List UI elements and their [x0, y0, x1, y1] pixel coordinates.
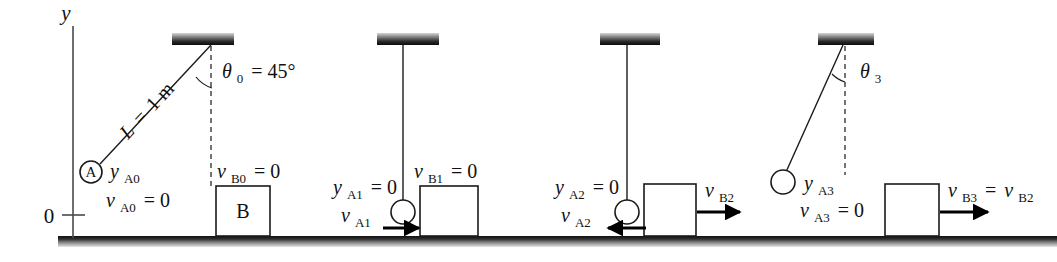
pendulum-ball-3 — [771, 170, 795, 194]
ceiling-support-3 — [818, 33, 874, 45]
collision-diagram: y 0 L = 1 m — [0, 0, 1057, 262]
vb1-label: v B1 = 0 — [414, 160, 477, 186]
origin-label: 0 — [44, 204, 55, 228]
va3-label: v A3 = 0 — [800, 199, 864, 225]
angle-arc-0 — [196, 77, 212, 88]
string-length-label: L = 1 m — [114, 77, 178, 143]
vb2-label: v B2 — [705, 179, 734, 205]
block-b-3 — [885, 184, 939, 236]
ceiling-support-1 — [377, 33, 439, 45]
pendulum-string-3 — [786, 45, 843, 172]
physics-figure: y 0 L = 1 m — [0, 0, 1057, 262]
vb0-label: v B0 = 0 — [217, 160, 280, 186]
ya0-label: y A0 — [108, 160, 140, 186]
ya2-label: y A2 = 0 — [553, 176, 619, 202]
ceiling-support-2 — [600, 33, 660, 45]
panel-1 — [377, 33, 478, 236]
y-axis: y 0 — [44, 1, 85, 238]
block-b-letter: B — [236, 200, 249, 222]
angle-arc-3 — [832, 74, 845, 82]
ground-surface — [58, 236, 1057, 247]
block-b-1 — [420, 186, 478, 236]
va1-label: v A1 — [341, 204, 371, 230]
block-b-2 — [644, 184, 696, 236]
vb3-label: v B3 = v B2 — [948, 179, 1033, 205]
ya1-label: y A1 = 0 — [331, 176, 397, 202]
ya3-label: y A3 — [802, 172, 834, 198]
ceiling-support-0 — [172, 33, 234, 45]
va2-label: v A2 — [561, 204, 591, 230]
pendulum-ball-2 — [615, 200, 639, 224]
theta0-label: θ 0 = 45° — [222, 60, 296, 86]
theta3-label: θ 3 — [860, 60, 881, 86]
panel-2 — [600, 33, 740, 236]
pendulum-ball-1 — [391, 200, 415, 224]
y-axis-label: y — [59, 1, 71, 25]
va0-label: v A0 = 0 — [106, 189, 170, 215]
ball-a-marker: A — [86, 164, 97, 180]
